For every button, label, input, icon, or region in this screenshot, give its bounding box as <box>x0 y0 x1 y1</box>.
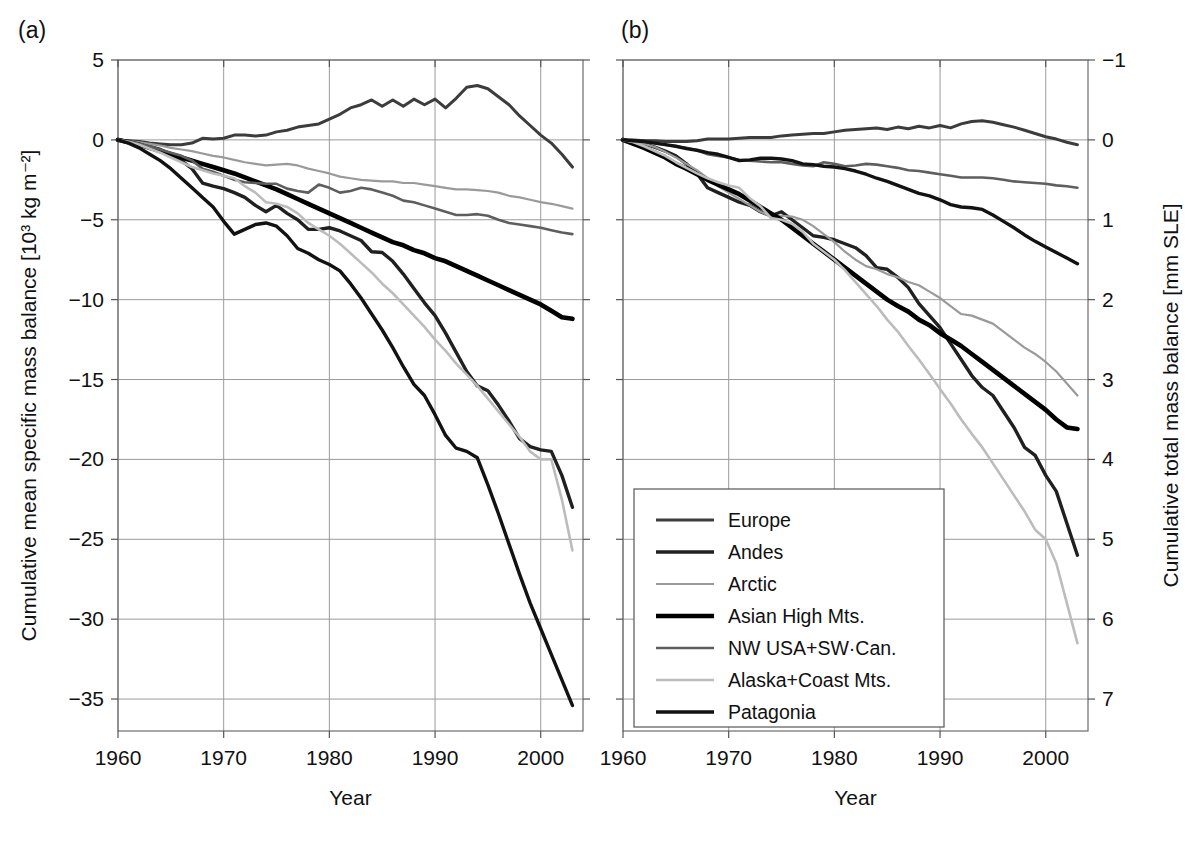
glacier-mass-balance-figure: (a)(b)50−5−10−15−20−25−30−35−10123456719… <box>0 0 1195 854</box>
x-tick-label-panel-b: 1990 <box>917 746 964 769</box>
series-line-alaska-coast-mts <box>118 140 572 551</box>
x-tick-label-panel-a: 1960 <box>95 746 142 769</box>
x-tick-label-panel-a: 1970 <box>200 746 247 769</box>
series-line-arctic <box>623 140 1077 396</box>
panel-a-plot <box>111 60 590 738</box>
x-tick-label-panel-a: 2000 <box>517 746 564 769</box>
y-tick-label-right: 6 <box>1102 607 1114 630</box>
y-tick-label-left: −35 <box>68 687 104 710</box>
y-tick-label-right: 1 <box>1102 208 1114 231</box>
series-line-nw-usa-sw-can <box>623 140 1077 188</box>
y-tick-label-left: −5 <box>80 208 104 231</box>
y-tick-label-left: −25 <box>68 527 104 550</box>
legend-label-patagonia: Patagonia <box>728 701 816 723</box>
legend-label-asian-high-mts: Asian High Mts. <box>728 605 865 627</box>
y-tick-label-right: 2 <box>1102 288 1114 311</box>
y-tick-label-left: −15 <box>68 368 104 391</box>
y-tick-label-left: −20 <box>68 447 104 470</box>
legend-label-andes: Andes <box>728 541 784 563</box>
panel-label-a: (a) <box>18 17 46 43</box>
y-axis-title-left: Cumulative mean specific mass balance [1… <box>17 150 40 642</box>
y-tick-label-left: 5 <box>92 48 104 71</box>
series-line-europe <box>623 121 1077 145</box>
y-tick-label-right: 4 <box>1102 447 1114 470</box>
series-line-patagonia <box>118 140 572 706</box>
x-tick-label-panel-b: 2000 <box>1022 746 1069 769</box>
y-tick-label-right: 7 <box>1102 687 1114 710</box>
series-line-europe <box>118 86 572 167</box>
legend-label-arctic: Arctic <box>728 573 777 595</box>
y-tick-label-right: 3 <box>1102 368 1114 391</box>
series-line-asian-high-mts <box>623 140 1077 429</box>
x-axis-title-panel-a: Year <box>329 786 371 809</box>
y-tick-label-right: 5 <box>1102 527 1114 550</box>
x-axis-title-panel-b: Year <box>834 786 876 809</box>
x-tick-label-panel-b: 1980 <box>811 746 858 769</box>
panel-label-b: (b) <box>621 17 649 43</box>
y-tick-label-left: −10 <box>68 288 104 311</box>
y-tick-label-left: 0 <box>92 128 104 151</box>
x-tick-label-panel-b: 1960 <box>600 746 647 769</box>
y-tick-label-right: −1 <box>1102 48 1126 71</box>
y-axis-title-right: Cumulative total mass balance [mm SLE] <box>1159 204 1182 588</box>
x-tick-label-panel-b: 1970 <box>705 746 752 769</box>
series-line-arctic <box>118 140 572 209</box>
y-tick-label-left: −30 <box>68 607 104 630</box>
x-tick-label-panel-a: 1990 <box>412 746 459 769</box>
figure-root: (a)(b)50−5−10−15−20−25−30−35−10123456719… <box>0 0 1195 854</box>
series-line-asian-high-mts <box>118 140 572 319</box>
legend-label-alaska-coast-mts: Alaska+Coast Mts. <box>728 669 891 691</box>
legend-label-europe: Europe <box>728 509 791 531</box>
y-tick-label-right: 0 <box>1102 128 1114 151</box>
legend-label-nw-usa-sw-can: NW USA+SW·Can. <box>728 637 896 659</box>
x-tick-label-panel-a: 1980 <box>306 746 353 769</box>
